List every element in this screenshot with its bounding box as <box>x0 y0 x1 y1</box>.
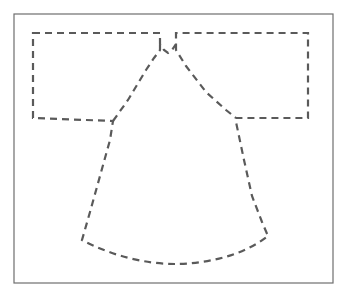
kimono-figure-svg <box>0 0 348 295</box>
figure-root <box>0 0 348 295</box>
image-border <box>14 14 333 283</box>
